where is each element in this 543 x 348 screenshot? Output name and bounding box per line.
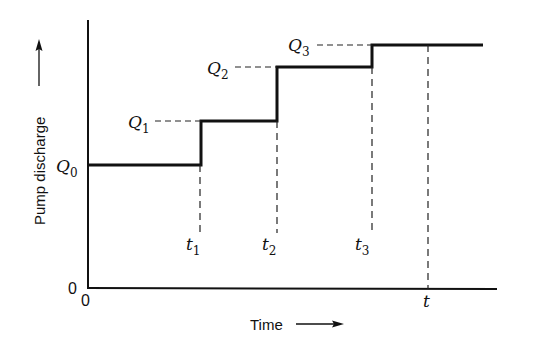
label-q2: Q2: [207, 58, 229, 82]
label-q0: Q0: [56, 156, 78, 180]
label-t1: t1: [186, 234, 200, 258]
time-guides: [200, 45, 428, 289]
discharge-step-line: [88, 45, 483, 165]
label-t: t: [423, 291, 430, 311]
label-t3: t3: [355, 234, 369, 258]
level-guides: [155, 45, 372, 121]
step-discharge-diagram: Q0 Q1 Q2 Q3 t1 t2 t3 t 0 0 Time Pump dis…: [0, 0, 543, 348]
origin-y-label: 0: [68, 280, 77, 297]
origin-x-label: 0: [81, 292, 90, 309]
label-q3: Q3: [288, 35, 310, 59]
label-t2: t2: [262, 234, 276, 258]
y-axis-title-group: Pump discharge: [31, 117, 48, 225]
y-arrow-icon: [36, 39, 43, 86]
x-arrow-icon: [296, 321, 344, 328]
x-axis: [87, 288, 497, 289]
y-axis-title: Pump discharge: [31, 117, 48, 225]
label-q1: Q1: [128, 112, 150, 136]
x-axis-title: Time: [250, 316, 283, 333]
